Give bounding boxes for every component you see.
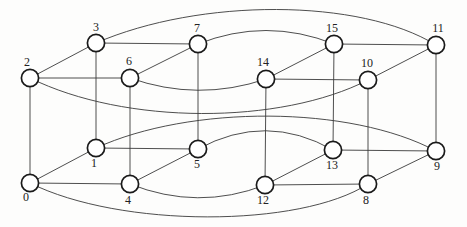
- edge-10-11: [368, 45, 436, 80]
- graph-node-2: [21, 69, 38, 86]
- graph-node-9: [427, 142, 444, 159]
- node-label-6: 6: [126, 54, 132, 68]
- edge-7-15: [198, 31, 334, 45]
- node-label-14: 14: [257, 55, 269, 69]
- node-label-11: 11: [432, 21, 444, 35]
- edge-3-11: [96, 9, 436, 45]
- node-label-4: 4: [125, 193, 131, 207]
- edge-1-5: [96, 148, 198, 149]
- node-label-2: 2: [24, 55, 30, 69]
- node-label-3: 3: [93, 20, 99, 34]
- graph-node-6: [121, 69, 138, 86]
- edge-14-15: [266, 44, 334, 79]
- edge-9-13: [333, 150, 436, 151]
- edge-8-9: [368, 151, 436, 184]
- node-label-1: 1: [91, 156, 97, 170]
- edge-2-10: [30, 78, 368, 114]
- edge-0-4: [30, 183, 130, 184]
- node-label-9: 9: [434, 159, 440, 173]
- graph-node-13: [324, 141, 341, 158]
- graph-canvas: 0123456789101112131415: [0, 0, 467, 227]
- graph-node-4: [121, 175, 138, 192]
- graph-node-7: [189, 35, 206, 52]
- graph-node-15: [325, 35, 342, 52]
- edge-4-5: [130, 149, 198, 184]
- edge-8-12: [265, 184, 368, 185]
- node-label-7: 7: [194, 21, 200, 35]
- graph-node-1: [87, 139, 104, 156]
- node-label-12: 12: [257, 193, 269, 207]
- edge-0-1: [30, 148, 96, 183]
- graph-node-12: [256, 176, 273, 193]
- edge-12-13: [265, 150, 333, 185]
- edge-2-3: [30, 43, 96, 78]
- node-label-0: 0: [23, 190, 29, 204]
- graph-node-3: [87, 34, 104, 51]
- edge-3-7: [96, 43, 198, 44]
- node-label-8: 8: [363, 193, 369, 207]
- edge-0-8: [30, 183, 368, 217]
- graph-node-5: [189, 140, 206, 157]
- edge-13-15: [333, 44, 334, 150]
- graph-node-8: [359, 175, 376, 192]
- node-label-5: 5: [194, 157, 200, 171]
- graph-node-11: [427, 36, 444, 53]
- edge-6-7: [130, 44, 198, 78]
- node-label-10: 10: [361, 56, 373, 70]
- graph-node-14: [257, 70, 274, 87]
- graph-node-10: [359, 71, 376, 88]
- node-label-15: 15: [326, 21, 338, 35]
- edge-12-14: [265, 79, 266, 185]
- node-label-13: 13: [326, 158, 338, 172]
- edge-4-12: [130, 184, 265, 198]
- hypercube-graph-figure: 0123456789101112131415: [0, 0, 467, 227]
- edge-10-14: [266, 79, 368, 80]
- edge-11-15: [334, 44, 436, 45]
